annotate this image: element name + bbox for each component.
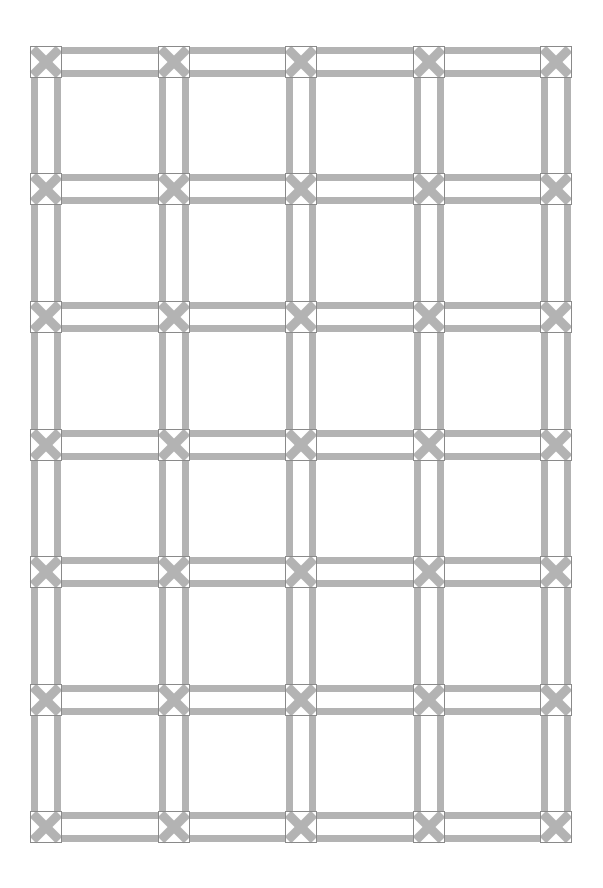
vertical-bar xyxy=(541,461,548,556)
horizontal-bar xyxy=(445,430,540,437)
horizontal-bar xyxy=(62,70,158,77)
vertical-bar xyxy=(414,333,421,429)
vertical-bar xyxy=(541,205,548,301)
horizontal-bar xyxy=(190,325,285,332)
horizontal-bar xyxy=(62,557,158,564)
horizontal-bar xyxy=(190,430,285,437)
horizontal-bar xyxy=(317,453,413,460)
horizontal-bar xyxy=(190,580,285,587)
horizontal-bar xyxy=(62,325,158,332)
horizontal-bar xyxy=(62,708,158,715)
vertical-bar xyxy=(437,588,444,684)
lattice-grid xyxy=(0,0,603,888)
grid-node xyxy=(30,811,62,843)
grid-node xyxy=(285,173,317,205)
horizontal-bar xyxy=(317,708,413,715)
vertical-bar xyxy=(414,588,421,684)
horizontal-bar xyxy=(62,812,158,819)
vertical-bar xyxy=(286,333,293,429)
grid-node xyxy=(158,173,190,205)
horizontal-bar xyxy=(317,580,413,587)
vertical-bar xyxy=(564,78,571,173)
grid-node xyxy=(285,301,317,333)
horizontal-bar xyxy=(445,453,540,460)
horizontal-bar xyxy=(317,812,413,819)
horizontal-bar xyxy=(445,47,540,54)
grid-node xyxy=(285,429,317,461)
horizontal-bar xyxy=(62,430,158,437)
vertical-bar xyxy=(54,461,61,556)
horizontal-bar xyxy=(317,174,413,181)
vertical-bar xyxy=(541,78,548,173)
vertical-bar xyxy=(437,333,444,429)
vertical-bar xyxy=(286,461,293,556)
vertical-bar xyxy=(564,333,571,429)
grid-node xyxy=(30,684,62,716)
grid-node xyxy=(413,684,445,716)
vertical-bar xyxy=(31,588,38,684)
vertical-bar xyxy=(159,716,166,811)
vertical-bar xyxy=(541,588,548,684)
horizontal-bar xyxy=(317,47,413,54)
vertical-bar xyxy=(309,205,316,301)
vertical-bar xyxy=(437,716,444,811)
horizontal-bar xyxy=(445,685,540,692)
horizontal-bar xyxy=(190,557,285,564)
horizontal-bar xyxy=(62,835,158,842)
horizontal-bar xyxy=(190,197,285,204)
vertical-bar xyxy=(564,716,571,811)
horizontal-bar xyxy=(445,197,540,204)
vertical-bar xyxy=(31,716,38,811)
vertical-bar xyxy=(31,205,38,301)
vertical-bar xyxy=(182,716,189,811)
vertical-bar xyxy=(309,716,316,811)
vertical-bar xyxy=(309,461,316,556)
grid-node xyxy=(540,301,572,333)
horizontal-bar xyxy=(190,47,285,54)
grid-node xyxy=(158,684,190,716)
vertical-bar xyxy=(159,461,166,556)
horizontal-bar xyxy=(317,325,413,332)
horizontal-bar xyxy=(317,197,413,204)
vertical-bar xyxy=(31,333,38,429)
grid-node xyxy=(158,429,190,461)
horizontal-bar xyxy=(62,197,158,204)
grid-node xyxy=(30,46,62,78)
horizontal-bar xyxy=(62,453,158,460)
grid-node xyxy=(413,556,445,588)
horizontal-bar xyxy=(445,580,540,587)
vertical-bar xyxy=(54,78,61,173)
vertical-bar xyxy=(437,78,444,173)
vertical-bar xyxy=(286,588,293,684)
horizontal-bar xyxy=(190,174,285,181)
horizontal-bar xyxy=(445,302,540,309)
grid-node xyxy=(285,684,317,716)
grid-node xyxy=(413,429,445,461)
vertical-bar xyxy=(414,716,421,811)
vertical-bar xyxy=(54,205,61,301)
grid-node xyxy=(540,429,572,461)
vertical-bar xyxy=(54,588,61,684)
horizontal-bar xyxy=(445,812,540,819)
grid-node xyxy=(158,46,190,78)
vertical-bar xyxy=(564,588,571,684)
grid-node xyxy=(30,429,62,461)
grid-node xyxy=(540,556,572,588)
vertical-bar xyxy=(286,716,293,811)
grid-node xyxy=(540,173,572,205)
grid-node xyxy=(540,46,572,78)
horizontal-bar xyxy=(190,708,285,715)
horizontal-bar xyxy=(317,835,413,842)
vertical-bar xyxy=(159,78,166,173)
horizontal-bar xyxy=(445,835,540,842)
horizontal-bar xyxy=(317,685,413,692)
horizontal-bar xyxy=(317,557,413,564)
vertical-bar xyxy=(182,78,189,173)
grid-node xyxy=(158,811,190,843)
horizontal-bar xyxy=(445,557,540,564)
vertical-bar xyxy=(564,205,571,301)
horizontal-bar xyxy=(190,685,285,692)
grid-node xyxy=(540,684,572,716)
horizontal-bar xyxy=(317,70,413,77)
horizontal-bar xyxy=(62,47,158,54)
